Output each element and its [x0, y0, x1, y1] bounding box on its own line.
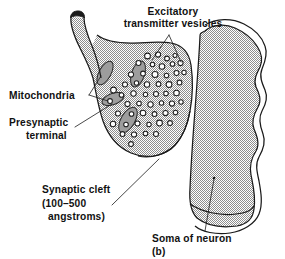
leader-synaptic-cleft: [112, 159, 159, 205]
transmitter-vesicle: [123, 82, 128, 87]
transmitter-vesicle: [141, 71, 146, 76]
transmitter-vesicle: [129, 142, 134, 147]
transmitter-vesicle: [159, 101, 163, 105]
transmitter-vesicle: [111, 87, 117, 93]
transmitter-vesicle: [125, 101, 130, 106]
transmitter-vesicle: [136, 61, 141, 66]
label-presynaptic-terminal: Presynaptic terminal: [9, 117, 69, 141]
label-mitochondria-line1: Mitochondria: [9, 90, 75, 101]
synapse-diagram-svg: Excitatory transmitter vesicles Mitochon…: [0, 0, 285, 259]
transmitter-vesicle: [124, 122, 129, 127]
transmitter-vesicle: [120, 132, 125, 137]
transmitter-vesicle: [144, 82, 149, 87]
transmitter-vesicle: [154, 92, 159, 97]
transmitter-vesicle: [156, 82, 161, 87]
label-synaptic-cleft-line3: angstroms): [48, 211, 105, 222]
transmitter-vesicle: [129, 112, 134, 117]
transmitter-vesicle: [134, 81, 138, 85]
presynaptic-terminal-structure: [71, 11, 193, 157]
transmitter-vesicle: [163, 110, 168, 115]
transmitter-vesicle: [159, 64, 165, 70]
transmitter-vesicle: [166, 82, 172, 88]
transmitter-vesicle: [182, 70, 186, 74]
transmitter-vesicle: [143, 92, 147, 96]
transmitter-vesicle: [169, 101, 174, 106]
transmitter-vesicle: [152, 112, 157, 117]
label-excitatory-vesicles-line2: transmitter vesicles: [124, 18, 223, 29]
transmitter-vesicle: [173, 54, 177, 58]
axon-terminal-cap: [71, 11, 85, 18]
figure-caption: (b): [152, 246, 165, 257]
transmitter-vesicle: [143, 131, 148, 136]
synapse-figure: Excitatory transmitter vesicles Mitochon…: [0, 0, 285, 259]
transmitter-vesicle: [150, 62, 154, 66]
label-mitochondria: Mitochondria: [9, 90, 75, 101]
label-presynaptic-terminal-line2: terminal: [26, 130, 67, 141]
transmitter-vesicle: [131, 91, 136, 96]
transmitter-vesicle: [148, 102, 153, 107]
transmitter-vesicle: [174, 71, 179, 76]
transmitter-vesicle: [164, 73, 169, 78]
soma-structure: [190, 20, 267, 234]
label-synaptic-cleft: Synaptic cleft (100–500 angstroms): [42, 184, 111, 222]
transmitter-vesicle: [145, 53, 151, 59]
transmitter-vesicle: [116, 111, 121, 116]
transmitter-vesicle: [157, 120, 163, 126]
label-soma: Soma of neuron: [152, 233, 232, 244]
transmitter-vesicle: [140, 110, 146, 116]
label-excitatory-vesicles: Excitatory transmitter vesicles: [124, 6, 223, 29]
transmitter-vesicle: [165, 56, 170, 61]
label-presynaptic-terminal-line1: Presynaptic: [9, 117, 69, 128]
transmitter-vesicle: [177, 80, 182, 85]
transmitter-vesicle: [173, 110, 178, 115]
label-excitatory-vesicles-line1: Excitatory: [148, 6, 199, 17]
transmitter-vesicle: [168, 121, 173, 126]
label-synaptic-cleft-line1: Synaptic cleft: [42, 184, 111, 195]
soma-body: [190, 25, 262, 227]
transmitter-vesicle: [110, 121, 115, 126]
label-soma-line1: Soma of neuron: [152, 233, 232, 244]
transmitter-vesicle: [170, 62, 175, 67]
transmitter-vesicle: [152, 72, 158, 78]
transmitter-vesicle: [147, 122, 151, 126]
transmitter-vesicle: [174, 90, 180, 96]
transmitter-vesicle: [137, 101, 142, 106]
transmitter-vesicle: [119, 93, 124, 98]
transmitter-vesicle: [128, 72, 133, 77]
label-synaptic-cleft-line2: (100–500: [42, 198, 86, 209]
transmitter-vesicle: [131, 132, 136, 137]
transmitter-vesicle: [164, 91, 169, 96]
transmitter-vesicle: [135, 121, 140, 126]
transmitter-vesicle: [154, 132, 159, 137]
transmitter-vesicle: [179, 100, 183, 104]
